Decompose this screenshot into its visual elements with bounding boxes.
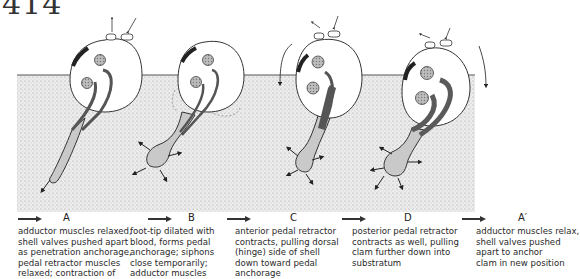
stage-description: adductor muscles relaxed, shell valves p… [18,226,138,279]
stage-b-caption: B foot-tip dilated with blood, forms ped… [130,212,245,279]
sequence-arrow-icon [462,218,484,220]
stage-letter: A′ [518,212,527,223]
stage-letter: C [290,212,297,223]
sequence-arrow-icon [342,218,364,220]
stage-letter: A [63,212,70,223]
stage-description: anterior pedal retractor contracts, pull… [235,226,355,279]
stage-letter: B [188,212,195,223]
stage-letter: D [404,212,412,223]
stage-d-caption: D posterior pedal retractor contracts as… [352,212,472,268]
stage-description: foot-tip dilated with blood, forms pedal… [130,226,245,279]
clam-burrowing-illustration [0,0,580,212]
stage-a-caption: A adductor muscles relaxed, shell valves… [18,212,138,279]
sequence-arrow-icon [148,218,170,220]
sequence-arrow-icon [227,218,249,220]
stage-description: adductor muscles relax, shell valves pus… [476,226,580,268]
stage-description: posterior pedal retractor contracts as w… [352,226,472,268]
stage-a-prime-caption: A′ adductor muscles relax, shell valves … [476,212,580,268]
stage-c-caption: C anterior pedal retractor contracts, pu… [235,212,355,279]
sequence-arrow-icon [18,218,40,220]
